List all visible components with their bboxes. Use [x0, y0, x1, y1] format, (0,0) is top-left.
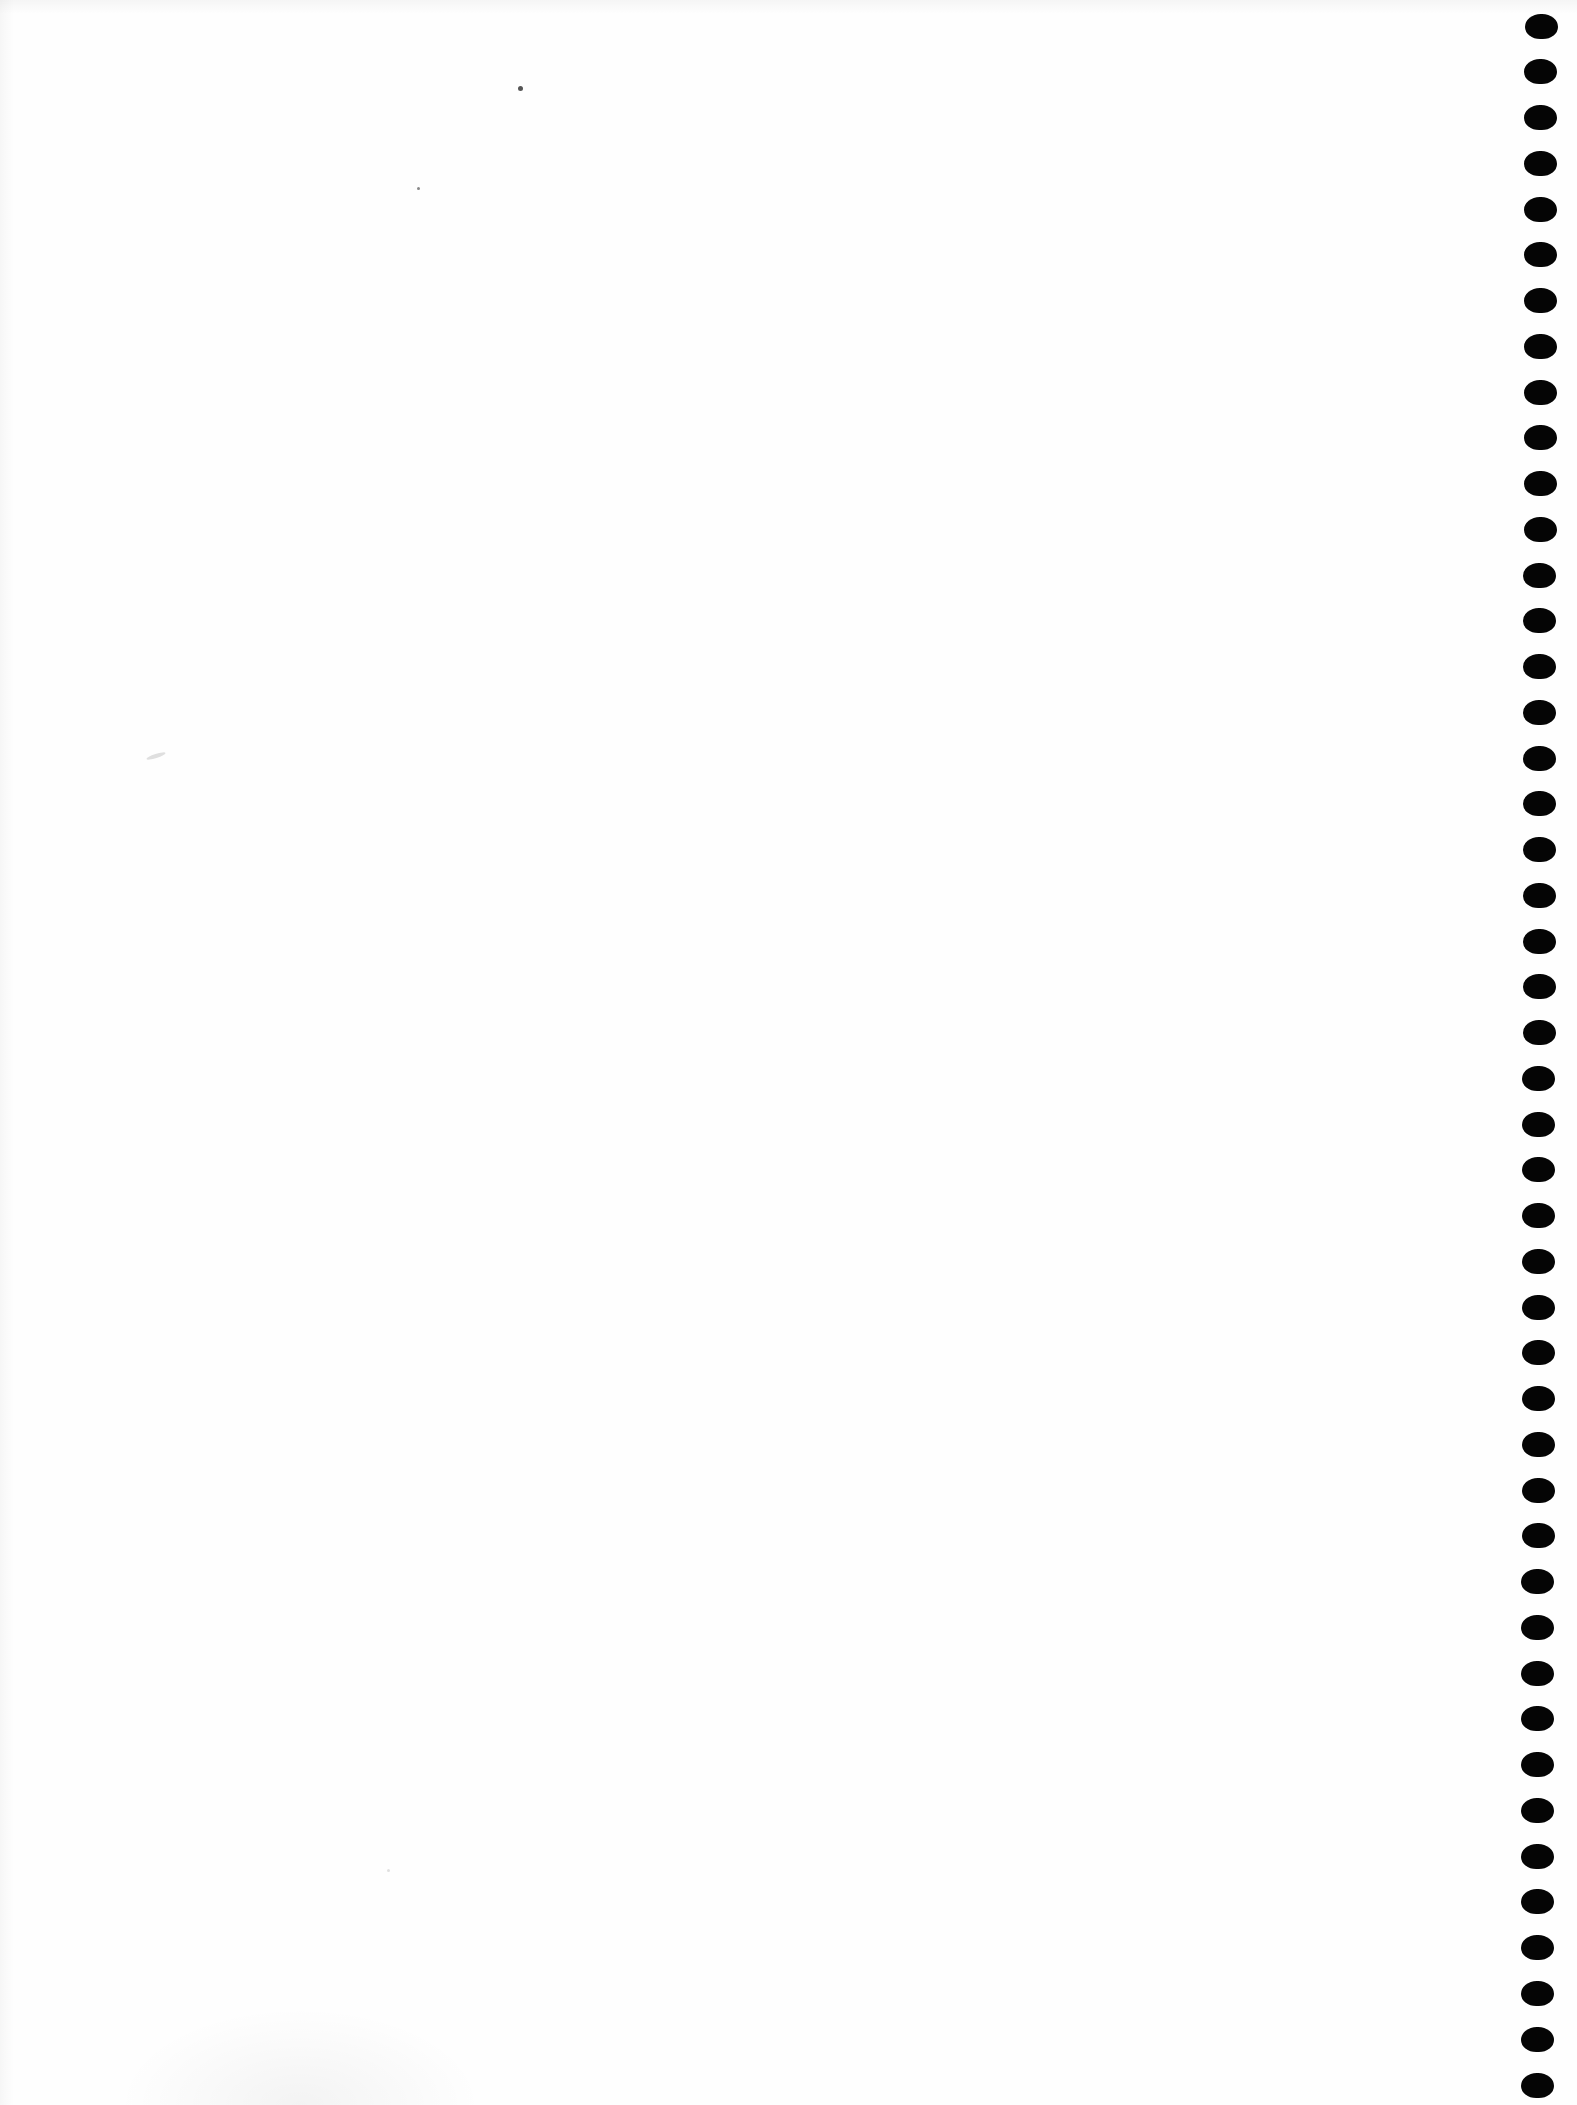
binding-hole [1523, 563, 1556, 588]
binding-hole [1524, 425, 1557, 450]
binding-hole [1524, 517, 1557, 542]
binding-hole [1521, 1889, 1554, 1914]
binding-hole [1524, 151, 1557, 176]
binding-hole [1522, 1523, 1555, 1548]
binding-hole [1522, 1478, 1555, 1503]
binding-hole [1521, 1661, 1554, 1686]
binding-hole [1524, 334, 1557, 359]
binding-hole [1523, 746, 1556, 771]
binding-hole [1524, 105, 1557, 130]
binding-hole [1522, 1249, 1555, 1274]
binding-hole [1525, 14, 1558, 39]
binding-hole [1521, 1844, 1554, 1869]
binding-hole [1522, 1066, 1555, 1091]
binding-hole [1524, 380, 1557, 405]
binding-hole [1523, 608, 1556, 633]
binding-hole [1521, 1615, 1554, 1640]
binding-hole [1524, 242, 1557, 267]
binding-hole [1522, 1386, 1555, 1411]
faint-mark [387, 1869, 390, 1872]
binding-hole [1523, 883, 1556, 908]
binding-hole [1521, 1706, 1554, 1731]
binding-hole [1524, 288, 1557, 313]
binding-hole [1523, 974, 1556, 999]
binding-hole [1521, 2027, 1554, 2052]
faint-mark [146, 751, 166, 761]
binding-hole [1521, 2073, 1554, 2098]
binding-hole [1521, 1569, 1554, 1594]
speck-mark [417, 187, 420, 190]
binding-hole [1522, 1295, 1555, 1320]
binding-hole [1521, 1935, 1554, 1960]
spiral-binding-holes [1500, 0, 1577, 2105]
binding-hole [1523, 654, 1556, 679]
binding-hole [1522, 1112, 1555, 1137]
binding-hole [1523, 791, 1556, 816]
binding-hole [1521, 1752, 1554, 1777]
binding-hole [1524, 197, 1557, 222]
binding-hole [1521, 1798, 1554, 1823]
binding-hole [1522, 1340, 1555, 1365]
binding-hole [1524, 59, 1557, 84]
binding-hole [1522, 1432, 1555, 1457]
binding-hole [1523, 837, 1556, 862]
binding-hole [1522, 1157, 1555, 1182]
binding-hole [1522, 1203, 1555, 1228]
binding-hole [1523, 700, 1556, 725]
notebook-page [0, 0, 1577, 2105]
binding-hole [1523, 929, 1556, 954]
binding-hole [1524, 471, 1557, 496]
speck-mark [518, 86, 523, 91]
binding-hole [1523, 1020, 1556, 1045]
binding-hole [1521, 1981, 1554, 2006]
